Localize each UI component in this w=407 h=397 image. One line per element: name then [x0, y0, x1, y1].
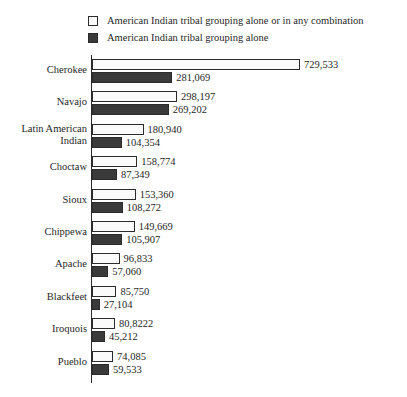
bar-value-label: 104,354	[126, 137, 160, 148]
bar-group: Cherokee729,533281,069	[0, 59, 407, 83]
bar-value-label: 149,669	[139, 221, 173, 232]
bar-value-label: 85,750	[120, 286, 149, 297]
bar-group: Iroquois80,822245,212	[0, 318, 407, 342]
bar-alone-or-combination	[92, 91, 177, 102]
bar-alone-or-combination	[92, 189, 136, 200]
bar-value-label: 45,212	[109, 331, 138, 342]
bar-row: 108,272	[92, 202, 161, 213]
legend-item-alone-or-combination: American Indian tribal grouping alone or…	[88, 12, 398, 29]
bar-value-label: 80,8222	[119, 318, 153, 329]
bar-alone	[92, 299, 100, 310]
bar-value-label: 180,940	[148, 124, 182, 135]
bar-row: 180,940	[92, 124, 182, 135]
bar-value-label: 74,085	[117, 351, 146, 362]
category-label: Choctaw	[0, 161, 87, 173]
bar-value-label: 59,533	[113, 364, 142, 375]
bar-alone-or-combination	[92, 351, 113, 362]
bar-value-label: 108,272	[127, 202, 161, 213]
bar-value-label: 153,360	[140, 189, 174, 200]
bar-group: Blackfeet85,75027,104	[0, 286, 407, 310]
bar-row: 96,833	[92, 253, 152, 264]
bar-row: 57,060	[92, 266, 141, 277]
bar-value-label: 729,533	[304, 59, 338, 70]
legend-swatch-light-icon	[88, 16, 98, 26]
bar-value-label: 105,907	[126, 234, 160, 245]
bar-group: Latin AmericanIndian180,940104,354	[0, 124, 407, 148]
legend-swatch-dark-icon	[88, 33, 98, 43]
category-label: Sioux	[0, 194, 87, 206]
category-label: Cherokee	[0, 64, 87, 76]
bar-group: Navajo298,197269,202	[0, 91, 407, 115]
bar-row: 729,533	[92, 59, 338, 70]
bar-row: 74,085	[92, 351, 146, 362]
bar-group: Chippewa149,669105,907	[0, 221, 407, 245]
bar-alone	[92, 202, 123, 213]
bar-row: 85,750	[92, 286, 149, 297]
bar-alone-or-combination	[92, 156, 137, 167]
bar-alone	[92, 104, 169, 115]
bar-alone-or-combination	[92, 318, 115, 329]
category-label: Latin AmericanIndian	[0, 123, 87, 147]
category-label: Apache	[0, 258, 87, 270]
bar-alone-or-combination	[92, 124, 144, 135]
bar-alone-or-combination	[92, 59, 300, 70]
chart-legend: American Indian tribal grouping alone or…	[88, 12, 398, 46]
bar-alone	[92, 266, 108, 277]
bar-value-label: 87,349	[121, 169, 150, 180]
legend-label: American Indian tribal grouping alone or…	[107, 15, 364, 26]
bar-alone	[92, 169, 117, 180]
bar-row: 87,349	[92, 169, 150, 180]
bar-alone	[92, 364, 109, 375]
category-label: Iroquois	[0, 323, 87, 335]
bar-alone	[92, 72, 172, 83]
bar-row: 281,069	[92, 72, 210, 83]
chart-plot-area: Cherokee729,533281,069Navajo298,197269,2…	[0, 55, 407, 387]
bar-value-label: 57,060	[112, 266, 141, 277]
category-label: Chippewa	[0, 226, 87, 238]
bar-value-label: 96,833	[124, 253, 153, 264]
bar-alone-or-combination	[92, 253, 120, 264]
bar-value-label: 158,774	[141, 156, 175, 167]
legend-item-alone: American Indian tribal grouping alone	[88, 29, 398, 46]
bar-row: 105,907	[92, 234, 160, 245]
bar-row: 59,533	[92, 364, 142, 375]
bar-row: 158,774	[92, 156, 175, 167]
bar-row: 45,212	[92, 331, 138, 342]
bar-row: 269,202	[92, 104, 207, 115]
bar-alone	[92, 331, 105, 342]
bar-value-label: 298,197	[181, 91, 215, 102]
bar-row: 80,8222	[92, 318, 153, 329]
bar-group: Choctaw158,77487,349	[0, 156, 407, 180]
bar-row: 153,360	[92, 189, 174, 200]
bar-row: 104,354	[92, 137, 160, 148]
bar-value-label: 281,069	[176, 72, 210, 83]
bar-alone-or-combination	[92, 221, 135, 232]
bar-alone	[92, 234, 122, 245]
category-label: Blackfeet	[0, 291, 87, 303]
category-label: Pueblo	[0, 356, 87, 368]
bar-row: 298,197	[92, 91, 215, 102]
bar-group: Apache96,83357,060	[0, 253, 407, 277]
bar-row: 27,104	[92, 299, 133, 310]
bar-alone-or-combination	[92, 286, 116, 297]
bar-row: 149,669	[92, 221, 173, 232]
bar-alone	[92, 137, 122, 148]
category-label: Navajo	[0, 96, 87, 108]
legend-label: American Indian tribal grouping alone	[107, 32, 269, 43]
bar-value-label: 269,202	[173, 104, 207, 115]
bar-group: Sioux153,360108,272	[0, 189, 407, 213]
bar-group: Pueblo74,08559,533	[0, 351, 407, 375]
bar-value-label: 27,104	[104, 299, 133, 310]
